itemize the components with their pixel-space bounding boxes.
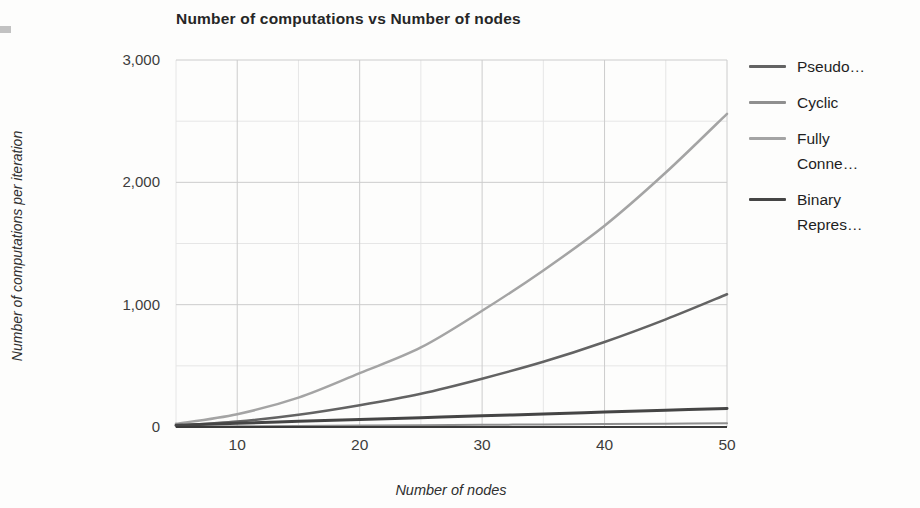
legend-label: Pseudo…	[797, 54, 865, 79]
legend-item-fully-conne-: Fully Conne…	[749, 126, 865, 176]
x-tick-label: 50	[697, 436, 757, 454]
x-tick-label: 30	[452, 436, 512, 454]
legend-line-swatch	[749, 198, 786, 201]
series-line-fully-conne-	[176, 114, 727, 424]
legend-label: Cyclic	[797, 90, 838, 115]
legend-swatch-wrap	[749, 54, 786, 79]
x-tick-label: 20	[330, 436, 390, 454]
legend-swatch-wrap	[749, 187, 786, 212]
legend-line-swatch	[749, 101, 786, 104]
legend-item-binary-repres-: Binary Repres…	[749, 187, 865, 237]
series-line-binary-repres-	[176, 408, 727, 425]
chart-legend: Pseudo…CyclicFully Conne…Binary Repres…	[749, 54, 865, 237]
legend-line-swatch	[749, 137, 786, 140]
legend-item-pseudo-: Pseudo…	[749, 54, 865, 79]
y-tick-label: 1,000	[86, 296, 160, 313]
legend-label: Fully Conne…	[797, 126, 858, 176]
x-tick-label: 10	[207, 436, 267, 454]
x-tick-label: 40	[575, 436, 635, 454]
y-tick-label: 0	[86, 418, 160, 435]
legend-line-swatch	[749, 65, 786, 68]
chart-page: Number of computations vs Number of node…	[0, 0, 920, 508]
y-tick-label: 3,000	[86, 51, 160, 68]
x-axis-title: Number of nodes	[306, 482, 596, 498]
legend-label: Binary Repres…	[797, 187, 862, 237]
legend-item-cyclic: Cyclic	[749, 90, 865, 115]
series-line-pseudo-	[176, 294, 727, 426]
legend-swatch-wrap	[749, 90, 786, 115]
y-tick-label: 2,000	[86, 173, 160, 190]
legend-swatch-wrap	[749, 126, 786, 151]
